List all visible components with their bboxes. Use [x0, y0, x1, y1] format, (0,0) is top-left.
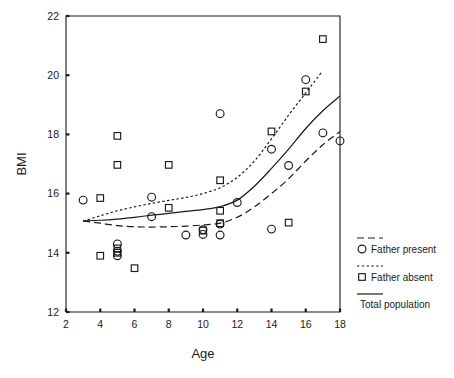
trend-curve-solid: [83, 96, 340, 221]
point-marker-square: [114, 133, 121, 140]
legend-item: Total population: [357, 294, 430, 310]
y-tick-label: 20: [47, 69, 59, 81]
trend-curves: [83, 72, 340, 227]
point-marker-square: [165, 205, 172, 212]
point-marker-circle: [148, 213, 156, 221]
point-marker-square: [285, 219, 292, 226]
point-marker-square: [131, 265, 138, 272]
point-marker-square: [217, 177, 224, 184]
point-marker-circle: [216, 110, 224, 118]
legend-marker-square: [359, 274, 366, 281]
x-tick-label: 16: [300, 318, 312, 330]
trend-curve-dotted: [83, 72, 322, 221]
bmi-age-scatter-figure: 121416182022 24681012141618 BMI Age Fath…: [0, 0, 454, 378]
x-tick-label: 12: [231, 318, 243, 330]
x-tick-label: 6: [132, 318, 138, 330]
point-marker-square: [217, 207, 224, 214]
data-points: [79, 36, 344, 272]
x-axis-title: Age: [191, 346, 214, 361]
point-marker-circle: [79, 196, 87, 204]
x-tick-label: 10: [197, 318, 209, 330]
point-marker-circle: [182, 231, 190, 239]
chart-canvas: 121416182022 24681012141618 BMI Age Fath…: [0, 0, 454, 378]
x-tick-label: 2: [63, 318, 69, 330]
x-tick-label: 8: [166, 318, 172, 330]
point-marker-circle: [216, 231, 224, 239]
legend-label: Total population: [360, 299, 430, 310]
chart-legend: Father presentFather absentTotal populat…: [357, 238, 436, 310]
point-marker-square: [114, 162, 121, 169]
legend-label: Father absent: [371, 272, 433, 283]
plot-frame: [66, 16, 340, 312]
x-tick-label: 18: [334, 318, 346, 330]
legend-marker-circle: [358, 245, 366, 253]
legend-label: Father present: [371, 244, 436, 255]
point-marker-circle: [148, 193, 156, 201]
point-marker-square: [320, 36, 327, 43]
legend-item: Father absent: [357, 266, 433, 283]
point-marker-circle: [319, 129, 327, 137]
point-marker-circle: [268, 225, 276, 233]
point-marker-square: [97, 195, 104, 202]
legend-item: Father present: [357, 238, 436, 255]
x-tick-label: 4: [97, 318, 103, 330]
point-marker-square: [268, 128, 275, 135]
y-tick-label: 18: [47, 128, 59, 140]
point-marker-circle: [285, 162, 293, 170]
point-marker-square: [97, 252, 104, 259]
y-tick-label: 14: [47, 247, 59, 259]
trend-curve-dashed: [83, 131, 340, 227]
y-tick-label: 12: [47, 306, 59, 318]
y-tick-label: 22: [47, 10, 59, 22]
y-tick-label: 16: [47, 187, 59, 199]
point-marker-circle: [302, 76, 310, 84]
x-tick-label: 14: [266, 318, 278, 330]
y-axis-title: BMI: [14, 152, 29, 175]
point-marker-square: [165, 162, 172, 169]
point-marker-circle: [268, 145, 276, 153]
